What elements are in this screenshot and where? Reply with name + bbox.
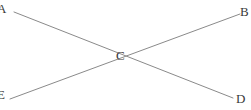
line-segment-e-b (10, 14, 240, 99)
vertex-label-b: B (240, 5, 249, 18)
diagram-lines-group (0, 0, 251, 110)
vertex-label-d: D (236, 92, 245, 105)
vertex-label-e: E (0, 88, 5, 101)
vertex-label-c: C (116, 49, 125, 62)
diagram-canvas: A B C D E (0, 0, 251, 110)
vertex-label-a: A (0, 2, 6, 15)
